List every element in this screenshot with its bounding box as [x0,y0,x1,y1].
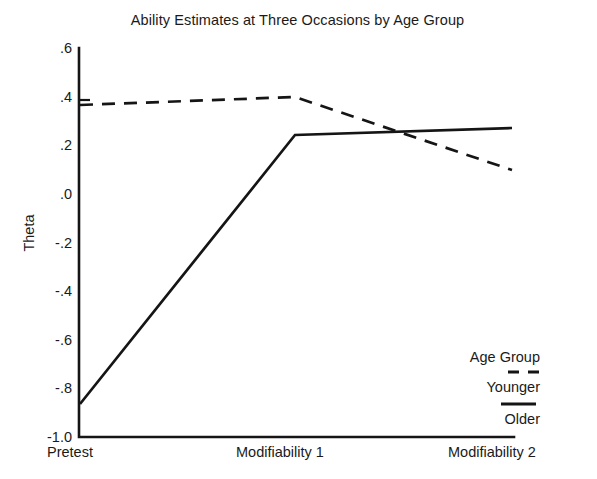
xtick-label-modifiability-2: Modifiability 2 [448,444,536,460]
plot-area [0,0,597,479]
xtick-label-modifiability-1: Modifiability 1 [236,444,324,460]
xtick-label-pretest: Pretest [47,444,93,460]
series-line-younger [80,97,512,170]
chart-figure: Ability Estimates at Three Occasions by … [0,0,597,479]
legend-label-older: Older [400,411,540,427]
legend-title: Age Group [400,349,540,365]
legend-label-younger: Younger [400,379,540,395]
